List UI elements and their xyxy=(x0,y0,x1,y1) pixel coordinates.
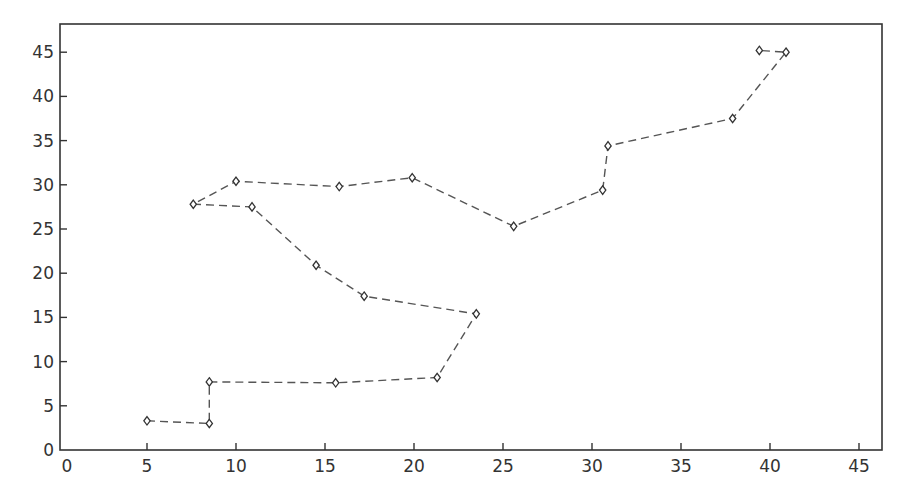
y-tick-label: 45 xyxy=(32,42,54,62)
diamond-marker-icon xyxy=(336,182,342,190)
diamond-marker-icon xyxy=(600,186,606,194)
y-tick-label: 5 xyxy=(43,396,54,416)
x-tick-label: 25 xyxy=(492,456,514,476)
x-tick-label: 5 xyxy=(142,456,153,476)
y-tick-label: 0 xyxy=(43,440,54,460)
diamond-marker-icon xyxy=(409,174,415,182)
y-tick-label: 10 xyxy=(32,352,54,372)
x-tick-label: 15 xyxy=(314,456,336,476)
x-tick-label: 0 xyxy=(62,456,73,476)
diamond-marker-icon xyxy=(144,417,150,425)
x-tick-label: 35 xyxy=(670,456,692,476)
diamond-marker-icon xyxy=(434,373,440,381)
data-series xyxy=(144,46,789,427)
x-tick-label: 40 xyxy=(759,456,781,476)
y-axis-ticks: 051015202530354045 xyxy=(32,42,67,460)
y-tick-label: 40 xyxy=(32,86,54,106)
y-tick-label: 20 xyxy=(32,263,54,283)
diamond-marker-icon xyxy=(206,419,212,427)
dashed-series-line xyxy=(147,50,786,423)
diamond-marker-icon xyxy=(361,292,367,300)
diamond-marker-icon xyxy=(190,200,196,208)
line-chart: 051015202530354045 051015202530354045 xyxy=(0,0,912,501)
x-axis-ticks: 051015202530354045 xyxy=(62,443,870,476)
diamond-marker-icon xyxy=(313,261,319,269)
y-tick-label: 25 xyxy=(32,219,54,239)
x-tick-label: 45 xyxy=(848,456,870,476)
x-tick-label: 20 xyxy=(403,456,425,476)
diamond-marker-icon xyxy=(756,46,762,54)
y-tick-label: 35 xyxy=(32,131,54,151)
diamond-marker-icon xyxy=(233,177,239,185)
diamond-marker-icon xyxy=(511,222,517,230)
diamond-marker-icon xyxy=(206,378,212,386)
y-tick-label: 15 xyxy=(32,307,54,327)
diamond-marker-icon xyxy=(605,142,611,150)
plot-frame xyxy=(60,24,882,450)
x-tick-label: 30 xyxy=(581,456,603,476)
diamond-marker-icon xyxy=(333,379,339,387)
y-tick-label: 30 xyxy=(32,175,54,195)
diamond-marker-icon xyxy=(249,203,255,211)
x-tick-label: 10 xyxy=(225,456,247,476)
axes-box xyxy=(60,24,882,450)
diamond-marker-icon xyxy=(473,310,479,318)
